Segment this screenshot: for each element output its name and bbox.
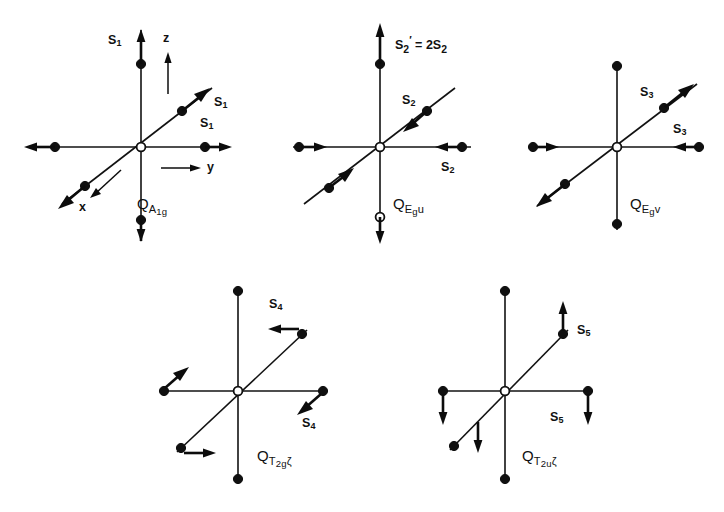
displacement-arrow-diag-upper-right (182, 88, 210, 111)
stretch-label-right: S3 (673, 123, 687, 137)
displacement-arrow-diag-lower-left (474, 422, 483, 453)
stretch-label-right: S2 (441, 161, 455, 175)
displacement-arrow-diag-upper-right (403, 112, 426, 132)
axis-arrow-x (90, 170, 121, 198)
octahedron-diagram-egu (275, 18, 485, 244)
axis-arrow-y (161, 164, 201, 171)
displacement-arrow-diag-lower-left (184, 448, 216, 457)
octahedron-diagram-a1g (22, 18, 232, 244)
axis-arrow-z (164, 52, 171, 94)
axis-label-y: y (207, 161, 214, 174)
displacement-arrow-right (673, 142, 697, 151)
displacement-arrow-diag-upper-right (268, 324, 299, 333)
mode-panel-t2u: S5 S5 QT2uζ (400, 272, 615, 498)
central-atom (501, 387, 510, 396)
stretch-label-diagonal: S4 (269, 298, 283, 312)
mode-panel-egu: S2′ = 2S2 S2 S2 QEgu (275, 18, 485, 244)
octahedron-diagram-egv (505, 18, 720, 244)
displacement-arrow-diag-lower-left (330, 168, 354, 187)
stretch-label-diagonal: S5 (577, 324, 591, 338)
displacement-arrow-left (24, 142, 55, 151)
mode-label-t2g: QT2gζ (257, 448, 292, 468)
displacement-arrow-left (165, 367, 189, 388)
stretch-label-right: S5 (550, 411, 564, 425)
axis-label-z: z (163, 32, 169, 45)
displacement-arrow-right (435, 142, 460, 151)
amplitude-relation-label: S2′ = 2S2 (395, 36, 447, 55)
displacement-arrow-left (535, 142, 559, 151)
ligand-atom-bottom (612, 219, 621, 228)
displacement-arrow-diag-upper-right (559, 301, 568, 331)
stretch-label-diagonal: S3 (640, 86, 654, 100)
ligand-atom-top (233, 286, 242, 295)
mode-label-egv: QEgv (630, 196, 661, 216)
ligand-atom-bottom (233, 474, 242, 483)
displacement-arrow-left (301, 142, 327, 151)
mode-label-t2u: QT2uζ (522, 448, 557, 468)
displacement-arrow-right (297, 394, 321, 415)
displacement-arrow-right (205, 142, 232, 151)
displacement-arrow-right (584, 394, 593, 425)
displacement-arrow-top (137, 29, 146, 64)
stretch-label-right: S1 (200, 117, 214, 131)
displacement-arrow-top (376, 23, 385, 64)
displacement-arrow-diag-upper-right (665, 84, 694, 107)
ligand-atom-top (500, 286, 509, 295)
displacement-arrow-diag-lower-left (536, 185, 564, 207)
stretch-label-diagonal: S2 (402, 94, 416, 108)
stretch-label-right: S4 (302, 417, 316, 431)
octahedron-diagram-t2u (400, 272, 615, 498)
ligand-atom-diag-upper-right (297, 329, 306, 338)
ligand-atom-diag-lower-left (176, 443, 185, 452)
axis-label-x: x (79, 201, 86, 214)
central-atom (234, 387, 243, 396)
ligand-atom-diag-lower-left (449, 441, 458, 450)
mode-label-a1g: QA1g (137, 196, 167, 216)
displacement-arrow-left (439, 394, 448, 425)
octahedron-diagram-t2g (135, 272, 350, 498)
ligand-atom-top (612, 61, 621, 70)
mode-panel-egv: S3 S3 QEgv (505, 18, 720, 244)
mode-panel-t2g: S4 S4 QT2gζ (135, 272, 350, 498)
ligand-atom-bottom (500, 474, 509, 483)
stretch-label-diagonal: S1 (214, 96, 228, 110)
mode-label-egu: QEgu (393, 196, 424, 216)
central-atom (137, 143, 146, 152)
figure-canvas: S1 S1 S1 z y x QA1g (0, 0, 724, 512)
stretch-label-top: S1 (108, 34, 122, 48)
mode-panel-a1g: S1 S1 S1 z y x QA1g (22, 18, 232, 244)
central-atom (376, 143, 385, 152)
central-atom (613, 143, 622, 152)
